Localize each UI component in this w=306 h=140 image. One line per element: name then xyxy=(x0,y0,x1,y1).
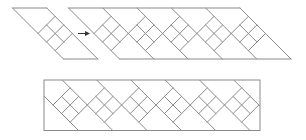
rectangular-band xyxy=(0,80,306,131)
diagonal-line xyxy=(268,80,306,131)
tiling-diagram xyxy=(0,0,306,140)
band-border xyxy=(44,80,260,131)
repeat-arrow-icon xyxy=(78,31,90,36)
arrow-head-icon xyxy=(85,31,90,36)
repeated-parallelogram-strip xyxy=(69,8,292,59)
diagonal-line xyxy=(0,80,44,131)
